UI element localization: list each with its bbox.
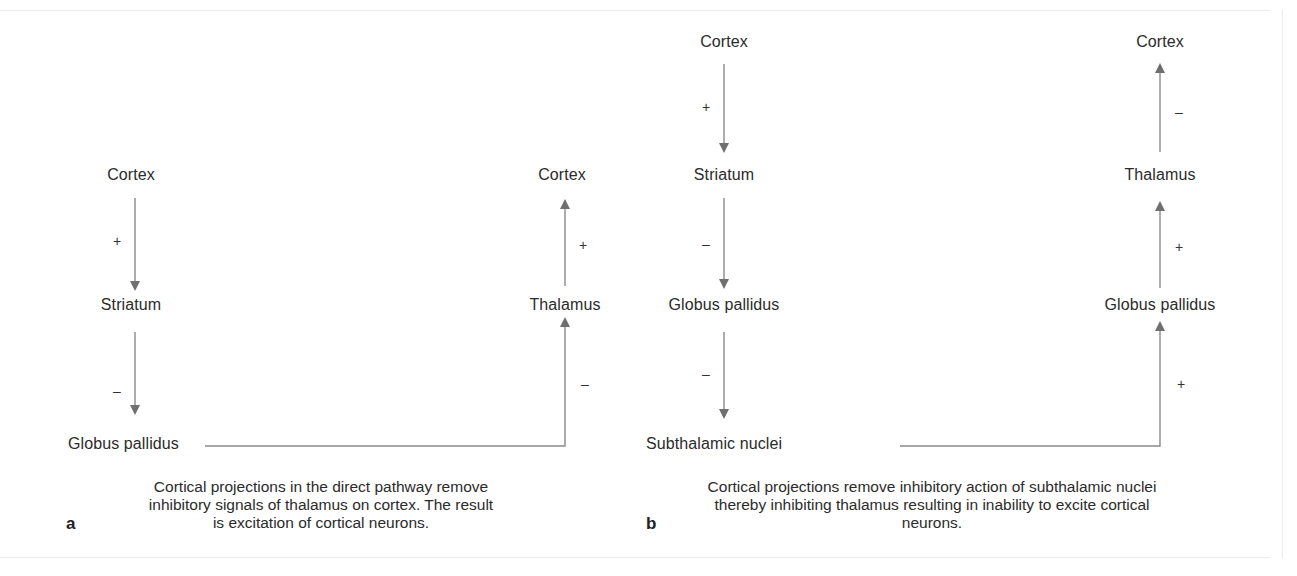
caption-a-line3: is excitation of cortical neurons.: [96, 514, 546, 532]
sign-b-stn-gp: +: [1177, 376, 1185, 392]
node-a-cortex-left: Cortex: [107, 165, 155, 185]
node-b-cortex-right: Cortex: [1136, 32, 1184, 52]
node-b-striatum: Striatum: [694, 165, 754, 185]
top-border: [0, 10, 1270, 11]
sign-b-gp-stn: –: [702, 366, 710, 382]
sign-a-striatum-gp: –: [113, 383, 121, 399]
arrow-a-gp-thalamus: [205, 322, 565, 446]
sign-b-thalamus-cortex: –: [1175, 104, 1183, 120]
right-border: [1282, 10, 1283, 558]
sign-a-thalamus-cortex: +: [579, 237, 587, 253]
sign-a-cortex-striatum: +: [113, 233, 121, 249]
node-a-thalamus: Thalamus: [529, 295, 600, 315]
panel-letter-b: b: [646, 514, 656, 534]
sign-a-gp-thalamus: –: [581, 376, 589, 392]
arrow-b-stn-gp: [900, 326, 1160, 446]
node-b-thalamus: Thalamus: [1124, 165, 1195, 185]
node-a-striatum: Striatum: [101, 295, 161, 315]
caption-b: Cortical projections remove inhibitory a…: [652, 478, 1212, 532]
caption-a-line2: inhibitory signals of thalamus on cortex…: [96, 496, 546, 514]
node-b-globus-pallidus: Globus pallidus: [669, 295, 780, 315]
caption-b-line3: neurons.: [652, 514, 1212, 532]
caption-b-line2: thereby inhibiting thalamus resulting in…: [652, 496, 1212, 514]
caption-b-line1: Cortical projections remove inhibitory a…: [652, 478, 1212, 496]
caption-a: Cortical projections in the direct pathw…: [96, 478, 546, 532]
node-a-cortex-right: Cortex: [538, 165, 586, 185]
sign-b-gp-thalamus: +: [1175, 239, 1183, 255]
panel-letter-a: a: [66, 514, 75, 534]
node-b-subthalamic-nuclei: Subthalamic nuclei: [646, 434, 782, 454]
node-b-globus-pallidus-right: Globus pallidus: [1105, 295, 1216, 315]
node-b-cortex-left: Cortex: [700, 32, 748, 52]
sign-b-striatum-gp: –: [702, 236, 710, 252]
caption-a-line1: Cortical projections in the direct pathw…: [96, 478, 546, 496]
node-a-globus-pallidus: Globus pallidus: [68, 434, 179, 454]
sign-b-cortex-striatum: +: [702, 99, 710, 115]
bottom-border: [0, 557, 1270, 558]
